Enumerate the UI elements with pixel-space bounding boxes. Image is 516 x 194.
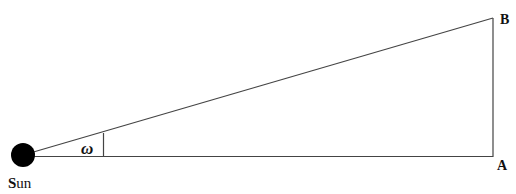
sun-label: Sun (8, 176, 31, 191)
sun-circle (11, 143, 35, 167)
hypotenuse-sun-to-b (30, 18, 493, 153)
diagram-canvas (0, 0, 516, 194)
point-a-label: A (497, 159, 507, 173)
point-b-label: B (500, 13, 509, 27)
angle-omega-label: ω (81, 140, 93, 157)
sun-label-rest: un (16, 175, 31, 191)
